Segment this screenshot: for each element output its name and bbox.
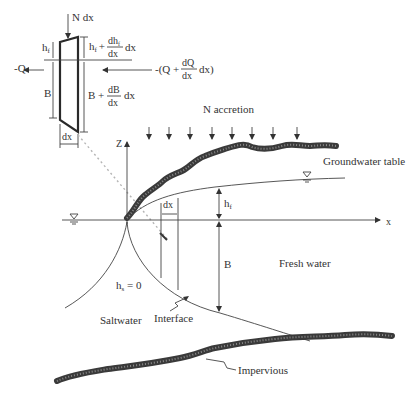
accretion-label: N accretion — [203, 103, 254, 115]
impervious-label: Impervious — [238, 364, 288, 376]
fresh-water-label: Fresh water — [279, 257, 331, 269]
left-flux-label: -Q — [14, 62, 26, 74]
b-right-prefix: B + — [88, 89, 104, 101]
right-flux-den: dx — [182, 70, 192, 81]
accretion-arrows — [149, 127, 297, 139]
interface-pointer — [170, 298, 186, 311]
hf-right-num: dhf — [108, 35, 120, 47]
hs-label: hs = 0 — [116, 279, 142, 293]
hf-right-suffix: dx — [125, 41, 137, 53]
x-axis-label: x — [386, 216, 391, 227]
right-flux-suffix: dx) — [199, 63, 214, 76]
aquifer-diagram: N dx -Q -(Q + dQ dx dx) hf B hf+ dhf dx … — [0, 0, 410, 401]
saltwater-label: Saltwater — [100, 314, 142, 326]
hf-label: hf — [224, 197, 233, 211]
interface-label: Interface — [154, 312, 193, 324]
hf-right-den: dx — [108, 48, 118, 59]
water-table-symbol — [303, 172, 311, 182]
right-flux-num: dQ — [182, 57, 195, 68]
hf-left-label: hf — [42, 41, 51, 55]
sea-level-symbol — [70, 214, 78, 224]
b-right-suffix: dx — [124, 89, 136, 101]
b-right-num: dB — [108, 84, 120, 95]
b-right-den: dx — [108, 97, 118, 108]
top-load-label: N dx — [72, 11, 94, 23]
impervious-base — [57, 334, 392, 381]
b-left-label: B — [44, 87, 51, 99]
right-flux-prefix: -(Q + — [155, 63, 179, 76]
strip-dx-label: dx — [163, 199, 173, 210]
b-label: B — [224, 258, 231, 270]
control-volume-element: N dx -Q -(Q + dQ dx dx) hf B hf+ dhf dx … — [14, 11, 214, 148]
z-axis-label: Z — [116, 138, 122, 149]
hf-right-label: hf+ — [89, 40, 105, 54]
saltwater-left-curve — [65, 222, 127, 308]
impervious-pointer — [206, 359, 236, 370]
main-cross-section: N accretion Z x Groundwater table — [57, 103, 405, 381]
width-label: dx — [62, 131, 72, 142]
element-trapezoid — [60, 37, 78, 132]
groundwater-label: Groundwater table — [323, 155, 405, 167]
